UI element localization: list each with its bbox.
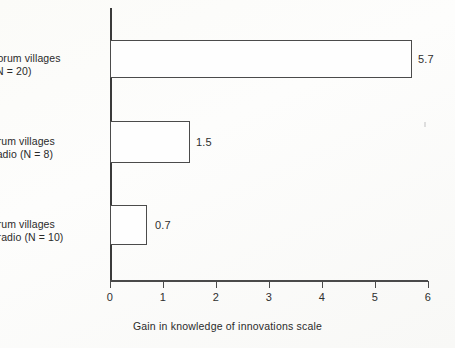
x-tick-label: 2 [204,291,228,303]
category-label-nonforum-villages-with-radio: Nonforum villages with radio (N = 8) [0,135,102,161]
x-axis-tick [216,281,217,288]
bar-value-label: 0.7 [155,219,171,231]
category-label-nonforum-villages-without-radio: Nonforum villages without radio (N = 10) [0,218,102,244]
x-axis-tick [322,281,323,288]
x-axis-title: Gain in knowledge of innovations scale [0,320,455,332]
category-label-line-1: Radio forum villages [0,52,61,64]
x-axis-tick [163,281,164,288]
bar-nonforum-villages-without-radio [110,205,147,245]
x-tick-label: 0 [98,291,122,303]
bar-nonforum-villages-with-radio [110,121,190,163]
bar-chart-figure: 0 1 2 3 4 5 6 5.7 Radio forum villages (… [0,0,455,348]
x-tick-label: 1 [151,291,175,303]
x-tick-label: 4 [310,291,334,303]
scan-artifact [424,122,426,127]
category-label-line-1: Nonforum villages [0,218,55,230]
x-tick-label: 6 [416,291,440,303]
x-axis-tick [375,281,376,288]
x-axis-tick [269,281,270,288]
x-tick-label: 3 [257,291,281,303]
category-label-line-2: (N = 20) [0,65,102,78]
x-axis-tick [110,281,111,288]
category-label-radio-forum-villages: Radio forum villages (N = 20) [0,52,102,78]
category-label-line-1: Nonforum villages [0,135,55,147]
x-axis-tick [428,281,429,288]
bar-value-label: 5.7 [418,53,434,65]
category-label-line-2: without radio (N = 10) [0,231,102,244]
bar-value-label: 1.5 [196,136,212,148]
bar-radio-forum-villages [110,40,412,78]
category-label-line-2: with radio (N = 8) [0,148,102,161]
x-tick-label: 5 [363,291,387,303]
